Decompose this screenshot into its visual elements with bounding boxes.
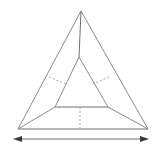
geometry-figure xyxy=(0,0,156,151)
base-width-dimension xyxy=(13,136,149,142)
edge-right-hidden-cross xyxy=(93,77,109,84)
edge-interior-top-to-inner-left xyxy=(55,57,79,107)
arrow-head-left-icon xyxy=(13,136,22,142)
edge-apex-to-interior-top xyxy=(79,11,81,57)
pyramid-diagram-svg xyxy=(0,0,156,151)
arrow-head-right-icon xyxy=(140,136,149,142)
edge-left-hidden-cross xyxy=(49,77,66,84)
edge-apex-to-base-right xyxy=(81,11,148,129)
edge-interior-top-to-inner-right xyxy=(79,57,108,107)
edge-apex-to-base-left xyxy=(18,11,81,129)
